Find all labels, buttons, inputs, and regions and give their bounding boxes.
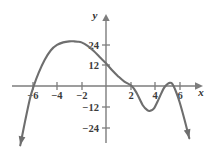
x-tick-label-neg2: −2 bbox=[76, 90, 87, 101]
y-axis-arrowhead bbox=[102, 14, 109, 21]
curve-right-arrowhead bbox=[184, 129, 191, 139]
y-axis-label: y bbox=[91, 9, 98, 21]
function-curve bbox=[20, 41, 189, 145]
graph-figure: −6 −4 −2 2 4 6 24 12 −12 −24 y x bbox=[0, 0, 213, 152]
y-tick-label-neg12: −12 bbox=[83, 102, 99, 113]
x-axis-label: x bbox=[197, 86, 204, 98]
y-tick-label-pos12: 12 bbox=[89, 60, 100, 71]
x-tick-label-pos2: 2 bbox=[128, 90, 133, 101]
x-tick-label-neg4: −4 bbox=[51, 90, 63, 101]
y-tick-label-neg24: −24 bbox=[83, 123, 100, 134]
y-tick-label-pos24: 24 bbox=[89, 40, 100, 51]
graph-canvas: −6 −4 −2 2 4 6 24 12 −12 −24 y x bbox=[0, 0, 213, 152]
